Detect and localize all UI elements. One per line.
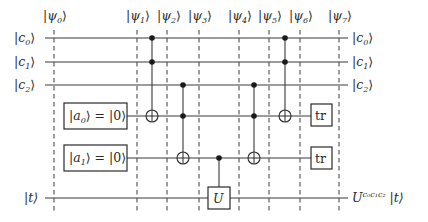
- control-dot-a1: [216, 155, 222, 161]
- state-label-psi7: |ψ7⟩: [328, 8, 352, 25]
- toffoli-gate-3: [248, 82, 260, 164]
- init-label-a1: |a1⟩ = |0⟩: [69, 150, 126, 167]
- control-dot-c1: [149, 59, 155, 65]
- state-label-psi6: |ψ6⟩: [289, 8, 313, 25]
- toffoli-gate-2: [177, 82, 189, 164]
- state-label-psi4: |ψ4⟩: [228, 8, 252, 25]
- control-dot-a0: [251, 113, 257, 119]
- quantum-circuit-diagram: |ψ0⟩ |ψ1⟩ |ψ2⟩ |ψ3⟩ |ψ4⟩ |ψ5⟩ |ψ6⟩ |ψ7⟩ …: [0, 0, 428, 222]
- output-label-c1: |c1⟩: [352, 54, 373, 71]
- control-dot-c1: [282, 59, 288, 65]
- state-label-psi2: |ψ2⟩: [157, 8, 181, 25]
- input-label-c2: |c2⟩: [14, 77, 35, 94]
- output-label-t: Uc₀c₁c₂ |t⟩: [352, 190, 404, 205]
- input-label-t: |t⟩: [24, 190, 38, 205]
- control-dot-c2: [251, 82, 257, 88]
- control-dot-c0: [149, 35, 155, 41]
- state-labels: |ψ0⟩ |ψ1⟩ |ψ2⟩ |ψ3⟩ |ψ4⟩ |ψ5⟩ |ψ6⟩ |ψ7⟩: [43, 8, 352, 25]
- state-label-psi3: |ψ3⟩: [188, 8, 212, 25]
- output-labels: |c0⟩ |c1⟩ |c2⟩ Uc₀c₁c₂ |t⟩: [352, 30, 404, 205]
- state-label-psi5: |ψ5⟩: [258, 8, 282, 25]
- state-label-psi1: |ψ1⟩: [126, 8, 150, 25]
- input-label-c1: |c1⟩: [14, 54, 35, 71]
- init-label-a0: |a0⟩ = |0⟩: [69, 108, 126, 125]
- toffoli-gate-4: [279, 35, 291, 122]
- state-label-psi0: |ψ0⟩: [43, 8, 67, 25]
- trace-box-a0: tr: [311, 104, 332, 126]
- control-dot-c0: [282, 35, 288, 41]
- u-gate-label: U: [213, 191, 224, 206]
- control-dot-c2: [180, 82, 186, 88]
- controlled-u-gate: U: [208, 155, 230, 209]
- toffoli-gate-1: [146, 35, 158, 122]
- output-label-c0: |c0⟩: [352, 30, 373, 47]
- output-label-c2: |c2⟩: [352, 77, 373, 94]
- input-label-c0: |c0⟩: [14, 30, 35, 47]
- ancilla-init-a0: |a0⟩ = |0⟩: [64, 103, 127, 129]
- control-dot-a0: [180, 113, 186, 119]
- trace-box-a1: tr: [311, 147, 332, 169]
- trace-label-a0: tr: [315, 108, 326, 123]
- input-labels: |c0⟩ |c1⟩ |c2⟩ |t⟩: [14, 30, 38, 205]
- ancilla-init-a1: |a1⟩ = |0⟩: [64, 145, 127, 171]
- trace-label-a1: tr: [315, 151, 326, 166]
